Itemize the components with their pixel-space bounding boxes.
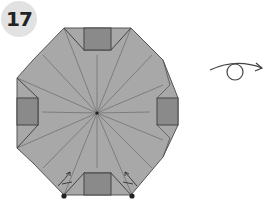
model-drawing [0, 0, 272, 211]
bottom-square [84, 173, 111, 195]
pivot-dot-right [129, 193, 134, 198]
top-square [84, 28, 111, 50]
pivot-dot-left [61, 193, 66, 198]
turn-over-icon [210, 63, 262, 80]
center-point [95, 111, 98, 114]
left-square [17, 98, 38, 125]
origami-diagram: 17 [0, 0, 272, 211]
right-square [157, 98, 178, 125]
